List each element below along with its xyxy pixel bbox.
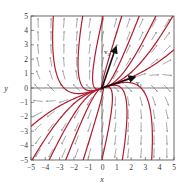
x-tick-label: −2 (70, 163, 78, 172)
x-tick-label: 0 (101, 163, 105, 172)
y-tick-label: 4 (24, 26, 28, 35)
y-tick-label: 5 (24, 12, 28, 21)
y-tick-label: 1 (24, 69, 28, 78)
y-tick-label: 2 (24, 55, 28, 64)
x-tick-label: −5 (27, 163, 35, 172)
y-axis-label: y (3, 84, 8, 93)
x-tick-label: 5 (172, 163, 176, 172)
phase-portrait-chart: v1 v2 −5−4−3−2−1012345 −5−4−3−2−1012345 … (0, 0, 179, 190)
y-tick-label: −3 (20, 127, 28, 136)
x-tick-label: 2 (129, 163, 133, 172)
x-tick-label: −3 (56, 163, 64, 172)
x-tick-label: 1 (115, 163, 119, 172)
x-tick-label: 3 (144, 163, 148, 172)
y-tick-label: 0 (24, 84, 28, 93)
y-tick-label: −1 (20, 98, 28, 107)
y-tick-label: −2 (20, 112, 28, 121)
y-tick-label: −5 (20, 156, 28, 165)
y-tick-label: −4 (20, 141, 28, 150)
y-tick-label: 3 (24, 40, 28, 49)
x-axis-label: x (99, 175, 104, 184)
x-tick-label: −4 (41, 163, 49, 172)
x-tick-label: −1 (84, 163, 92, 172)
x-tick-label: 4 (158, 163, 162, 172)
origin-point (100, 86, 103, 89)
